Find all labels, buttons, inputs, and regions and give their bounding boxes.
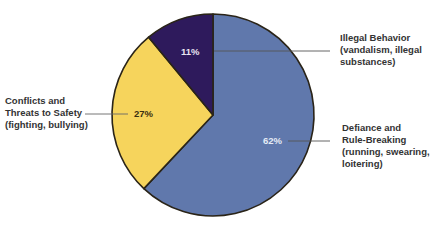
callout-line: (fighting, bullying) [5,119,88,131]
callout-line: Conflicts and [5,95,88,107]
callout-line: Rule-Breaking [342,134,430,146]
callout-line: Illegal Behavior [340,32,422,44]
callout-label-illegal: Illegal Behavior (vandalism, illegal sub… [340,32,422,68]
callout-line: (running, swearing, [342,146,430,158]
callout-line: (vandalism, illegal [340,44,422,56]
callout-label-conflicts: Conflicts and Threats to Safety (fightin… [5,95,88,131]
callout-line: Defiance and [342,122,430,134]
callout-line: Threats to Safety [5,107,88,119]
callout-line: loitering) [342,158,430,170]
callout-label-defiance: Defiance and Rule-Breaking (running, swe… [342,122,430,170]
callout-line: substances) [340,56,422,68]
slice-percent-conflicts: 27% [134,108,153,120]
slice-percent-illegal: 11% [181,46,200,58]
slice-percent-defiance: 62% [263,135,282,147]
